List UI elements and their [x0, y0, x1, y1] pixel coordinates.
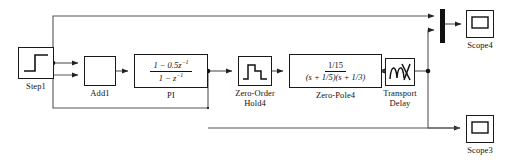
pi-denominator: 1 − z−1 [156, 72, 187, 83]
block-pi-label: PI [134, 91, 208, 101]
block-add1[interactable] [84, 56, 116, 86]
scope-icon [467, 116, 493, 142]
block-mux[interactable] [440, 9, 445, 43]
step-icon [19, 48, 53, 78]
junction-dot-branch-c [426, 69, 431, 74]
block-step1[interactable] [18, 47, 54, 79]
block-zero-order-hold4[interactable] [238, 56, 272, 86]
block-diagram-canvas: Step1 Add1 1 − 0.5z−1 1 − z−1 PI Zero-Or… [0, 0, 508, 165]
block-zero-order-hold4-label: Zero-Order Hold4 [220, 89, 290, 108]
block-zero-pole4[interactable]: 1/15 (s + 1/5)(s + 1/3) [289, 54, 382, 88]
block-pi[interactable]: 1 − 0.5z−1 1 − z−1 [134, 54, 208, 88]
discrete-transfer-function-icon: 1 − 0.5z−1 1 − z−1 [135, 55, 207, 87]
block-scope4[interactable] [466, 10, 494, 38]
continuous-transfer-function-icon: 1/15 (s + 1/5)(s + 1/3) [290, 55, 381, 87]
block-transport-delay[interactable] [385, 58, 415, 86]
block-zero-pole4-label: Zero-Pole4 [289, 91, 382, 101]
wire-branch-a-down [53, 63, 78, 75]
block-scope4-label: Scope4 [452, 41, 508, 51]
zero-pole4-denominator: (s + 1/5)(s + 1/3) [303, 72, 369, 83]
pi-numerator: 1 − 0.5z−1 [150, 59, 191, 71]
wire-branch-c-to-scope3 [428, 71, 460, 128]
block-transport-delay-label: Transport Delay [370, 89, 430, 108]
junction-dot-bottom-rail [207, 107, 209, 109]
transport-delay-icon [386, 59, 414, 85]
empty-sum-icon [85, 57, 115, 85]
staircase-hold-icon [239, 57, 271, 85]
block-scope3-label: Scope3 [452, 146, 508, 156]
block-step1-label: Step1 [8, 82, 64, 92]
wire-branch-c-to-mux [428, 30, 434, 71]
scope-icon [467, 11, 493, 37]
zero-pole4-numerator: 1/15 [325, 60, 346, 72]
block-scope3[interactable] [466, 115, 494, 143]
block-add1-label: Add1 [58, 89, 142, 99]
